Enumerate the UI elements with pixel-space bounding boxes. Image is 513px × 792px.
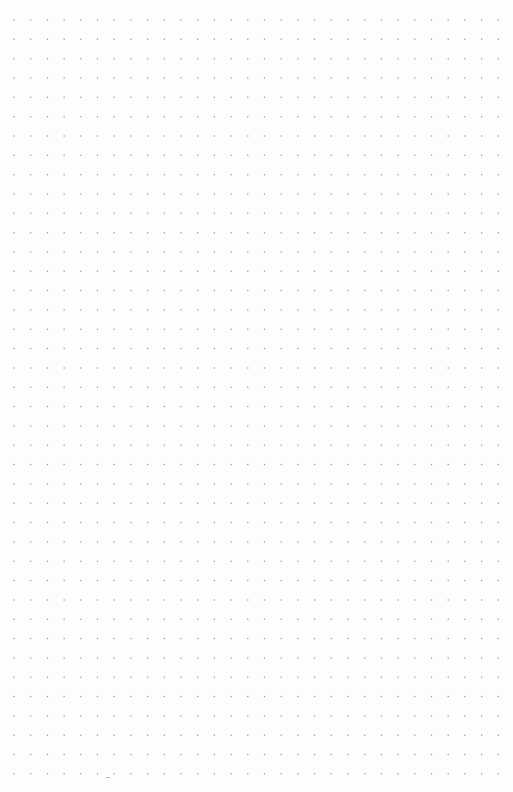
grid-dot bbox=[314, 406, 316, 408]
grid-dot bbox=[130, 696, 132, 698]
grid-dot bbox=[447, 232, 449, 234]
grid-dot bbox=[230, 251, 232, 253]
grid-dot bbox=[297, 367, 299, 369]
grid-dot bbox=[331, 348, 333, 350]
grid-dot bbox=[97, 387, 99, 389]
grid-dot bbox=[297, 271, 299, 273]
grid-dot bbox=[481, 193, 483, 195]
grid-dot bbox=[130, 387, 132, 389]
grid-dot bbox=[414, 464, 416, 466]
grid-dot bbox=[347, 97, 349, 99]
grid-dot bbox=[498, 541, 500, 543]
grid-dot bbox=[397, 560, 399, 562]
grid-dot bbox=[264, 329, 266, 331]
grid-dot bbox=[481, 251, 483, 253]
grid-dot bbox=[314, 155, 316, 157]
grid-dot bbox=[164, 715, 166, 717]
grid-dot bbox=[447, 58, 449, 60]
grid-dot bbox=[431, 464, 433, 466]
grid-dot bbox=[80, 657, 82, 659]
grid-dot bbox=[264, 715, 266, 717]
grid-dot bbox=[414, 213, 416, 215]
grid-dot bbox=[247, 734, 249, 736]
grid-dot bbox=[180, 290, 182, 292]
grid-dot bbox=[414, 599, 416, 601]
grid-dot bbox=[498, 232, 500, 234]
grid-dot bbox=[147, 39, 149, 41]
grid-dot bbox=[214, 116, 216, 118]
grid-dot bbox=[414, 135, 416, 137]
grid-dot bbox=[314, 329, 316, 331]
grid-dot bbox=[264, 232, 266, 234]
grid-dot bbox=[481, 638, 483, 640]
grid-dot bbox=[331, 425, 333, 427]
grid-dot bbox=[97, 503, 99, 505]
grid-dot bbox=[431, 251, 433, 253]
grid-dot bbox=[397, 464, 399, 466]
grid-dot bbox=[414, 715, 416, 717]
grid-dot bbox=[447, 213, 449, 215]
grid-dot bbox=[247, 425, 249, 427]
grid-dot bbox=[381, 116, 383, 118]
grid-dot bbox=[314, 77, 316, 79]
grid-dot bbox=[481, 271, 483, 273]
grid-dot bbox=[414, 348, 416, 350]
grid-dot bbox=[113, 348, 115, 350]
grid-dot bbox=[297, 638, 299, 640]
grid-dot bbox=[63, 445, 65, 447]
grid-dot bbox=[180, 696, 182, 698]
grid-dot bbox=[381, 97, 383, 99]
grid-dot bbox=[113, 329, 115, 331]
grid-dot bbox=[214, 425, 216, 427]
grid-dot bbox=[180, 97, 182, 99]
grid-dot bbox=[280, 387, 282, 389]
grid-dot bbox=[247, 348, 249, 350]
grid-dot bbox=[481, 309, 483, 311]
grid-dot bbox=[431, 387, 433, 389]
grid-dot bbox=[264, 773, 266, 775]
grid-dot bbox=[164, 657, 166, 659]
grid-dot bbox=[464, 406, 466, 408]
grid-dot bbox=[314, 232, 316, 234]
grid-dot bbox=[113, 367, 115, 369]
grid-dot bbox=[498, 290, 500, 292]
grid-dot bbox=[464, 503, 466, 505]
grid-dot bbox=[47, 406, 49, 408]
grid-dot bbox=[113, 387, 115, 389]
grid-dot bbox=[164, 541, 166, 543]
grid-dot bbox=[481, 580, 483, 582]
grid-dot bbox=[63, 135, 65, 137]
grid-dot bbox=[63, 773, 65, 775]
grid-dot bbox=[214, 309, 216, 311]
grid-dot bbox=[481, 599, 483, 601]
grid-dot bbox=[280, 618, 282, 620]
grid-dot bbox=[347, 657, 349, 659]
grid-dot bbox=[381, 329, 383, 331]
grid-dot bbox=[297, 19, 299, 21]
grid-dot bbox=[130, 39, 132, 41]
grid-dot bbox=[47, 309, 49, 311]
grid-dot bbox=[498, 464, 500, 466]
grid-dot bbox=[130, 19, 132, 21]
grid-dot bbox=[464, 97, 466, 99]
grid-dot bbox=[230, 541, 232, 543]
grid-dot bbox=[297, 309, 299, 311]
grid-dot bbox=[214, 676, 216, 678]
grid-dot bbox=[30, 251, 32, 253]
grid-dot bbox=[464, 155, 466, 157]
grid-dot bbox=[280, 522, 282, 524]
grid-dot bbox=[197, 77, 199, 79]
grid-dot bbox=[364, 58, 366, 60]
grid-dot bbox=[113, 290, 115, 292]
grid-dot bbox=[447, 541, 449, 543]
grid-dot bbox=[130, 116, 132, 118]
grid-dot bbox=[331, 309, 333, 311]
grid-dot bbox=[498, 560, 500, 562]
grid-dot bbox=[130, 483, 132, 485]
grid-dot bbox=[347, 329, 349, 331]
grid-dot bbox=[414, 19, 416, 21]
grid-dot bbox=[381, 387, 383, 389]
grid-dot bbox=[180, 58, 182, 60]
grid-dot bbox=[214, 58, 216, 60]
grid-dot bbox=[130, 580, 132, 582]
